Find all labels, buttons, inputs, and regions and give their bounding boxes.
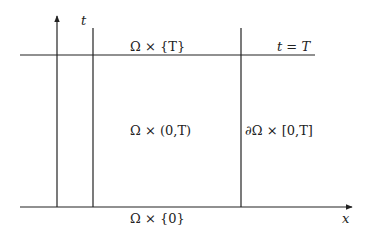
bottom-boundary-label: Ω × {0} bbox=[130, 211, 185, 226]
lateral-boundary-label: ∂Ω × [0,T] bbox=[245, 123, 313, 138]
x-axis-label: x bbox=[342, 211, 350, 226]
t-axis-label: t bbox=[81, 13, 87, 28]
space-time-diagram: t x Ω × {T} t = T Ω × (0,T) ∂Ω × [0,T] Ω… bbox=[0, 0, 365, 239]
interior-label: Ω × (0,T) bbox=[130, 123, 191, 138]
top-boundary-label: Ω × {T} bbox=[130, 39, 185, 54]
time-line-label: t = T bbox=[277, 39, 311, 54]
